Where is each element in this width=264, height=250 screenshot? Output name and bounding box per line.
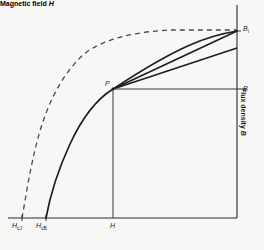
label-bi: Bi [243, 25, 249, 32]
magnetization-curve-figure: HcJ HcB H Bi B P Magnetic field H Flux d… [0, 0, 264, 250]
permeance-line-to-b [113, 48, 237, 89]
label-h: H [110, 222, 115, 229]
normal-demagnetization-curve-lower [46, 89, 113, 218]
y-axis-title: Flux density B [240, 88, 247, 168]
label-point-p: P [105, 80, 110, 87]
operating-point-marker [112, 88, 115, 91]
label-hcj: HcJ [12, 222, 22, 229]
permeance-line-to-bi [113, 31, 237, 89]
label-hcb: HcB [36, 222, 47, 229]
plot-canvas [0, 0, 264, 250]
